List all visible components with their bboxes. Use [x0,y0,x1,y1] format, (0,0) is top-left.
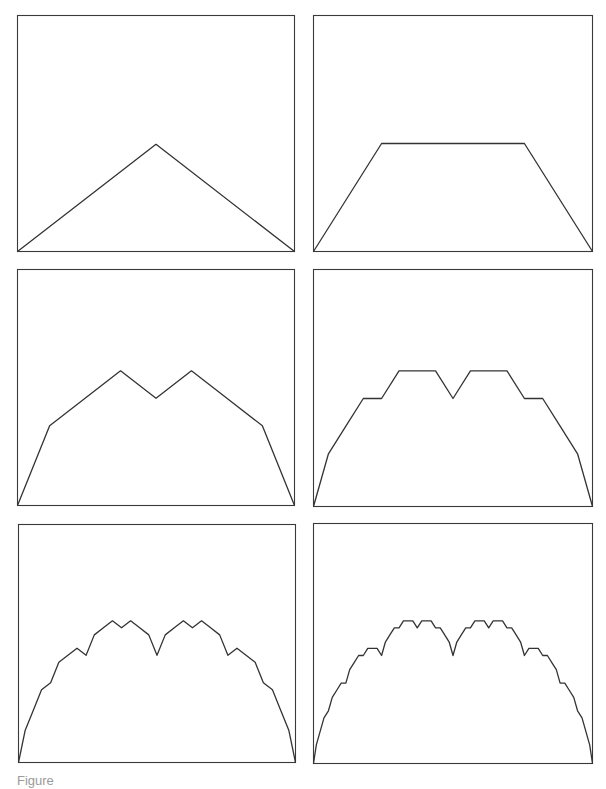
panel-3 [18,270,295,506]
panel-frame [18,16,295,252]
fractal-curve [18,144,295,251]
panel-grid [18,16,593,764]
panel-frame [314,270,593,507]
panel-frame [314,16,593,252]
panel-6 [314,524,593,764]
fractal-curve [314,144,593,252]
panel-2 [314,16,593,252]
fractal-curve [18,371,295,506]
figure-caption: Figure [17,773,54,789]
panel-frame [18,270,295,506]
panel-frame [19,525,296,763]
fractal-curve [314,371,593,507]
panel-5 [19,525,296,763]
panel-1 [18,16,295,252]
fractal-curve [314,621,593,764]
panel-4 [314,270,593,507]
panel-frame [314,524,593,764]
fractal-curve [19,621,296,763]
